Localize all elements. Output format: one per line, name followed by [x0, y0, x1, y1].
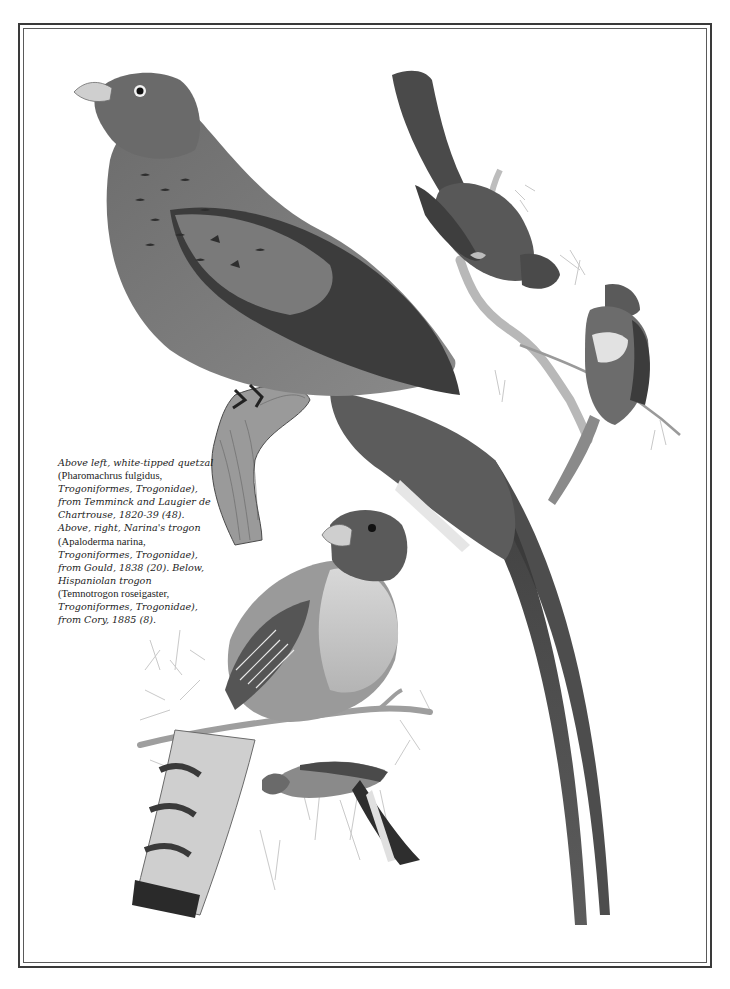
caption-line: Above left, white-tipped quetzal [58, 456, 238, 469]
caption-line-species: (Apaloderma narina, [58, 535, 238, 548]
caption-line: Above, right, Narina's trogon [58, 521, 238, 534]
caption-line: Hispaniolan trogon [58, 574, 238, 587]
caption-line: Trogoniformes, Trogonidae), [58, 548, 238, 561]
caption-line: Trogoniformes, Trogonidae), [58, 482, 238, 495]
caption-line: Trogoniformes, Trogonidae), [58, 600, 238, 613]
caption-line-species: (Pharomachrus fulgidus, [58, 469, 238, 482]
figure-caption: Above left, white-tipped quetzal (Pharom… [58, 456, 238, 626]
caption-line: Chartrouse, 1820-39 (48). [58, 508, 238, 521]
caption-line: from Cory, 1885 (8). [58, 613, 238, 626]
caption-line: from Temminck and Laugier de [58, 495, 238, 508]
caption-line-species: (Temnotrogon roseigaster, [58, 587, 238, 600]
caption-line: from Gould, 1838 (20). Below, [58, 561, 238, 574]
